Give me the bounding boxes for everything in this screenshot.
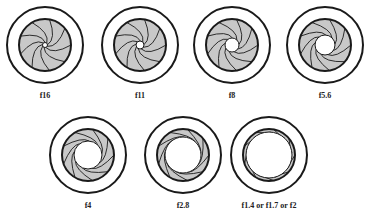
- aperture-icon: [143, 115, 223, 195]
- f-stop-label: f16: [0, 91, 95, 100]
- aperture-icon: [285, 5, 365, 85]
- aperture-icon: [48, 115, 128, 195]
- f-stop-label: f5.6: [275, 91, 371, 100]
- f-stop-label: f11: [90, 91, 190, 100]
- f-stop-label: f1.4 or f1.7 or f2: [219, 201, 319, 210]
- aperture-icon: [5, 5, 85, 85]
- aperture-icon: [229, 115, 309, 195]
- f-stop-label: f8: [182, 91, 282, 100]
- aperture-icon: [192, 5, 272, 85]
- f-stop-label: f4: [38, 201, 138, 210]
- f-stop-label: f2.8: [133, 201, 233, 210]
- aperture-icon: [100, 5, 180, 85]
